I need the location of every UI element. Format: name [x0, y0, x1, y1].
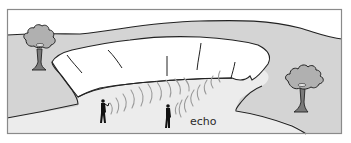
left-tree-highlight: [36, 44, 44, 47]
right-tree-highlight: [298, 84, 306, 87]
echo-diagram: [0, 0, 351, 143]
echo-label: echo: [190, 116, 217, 128]
